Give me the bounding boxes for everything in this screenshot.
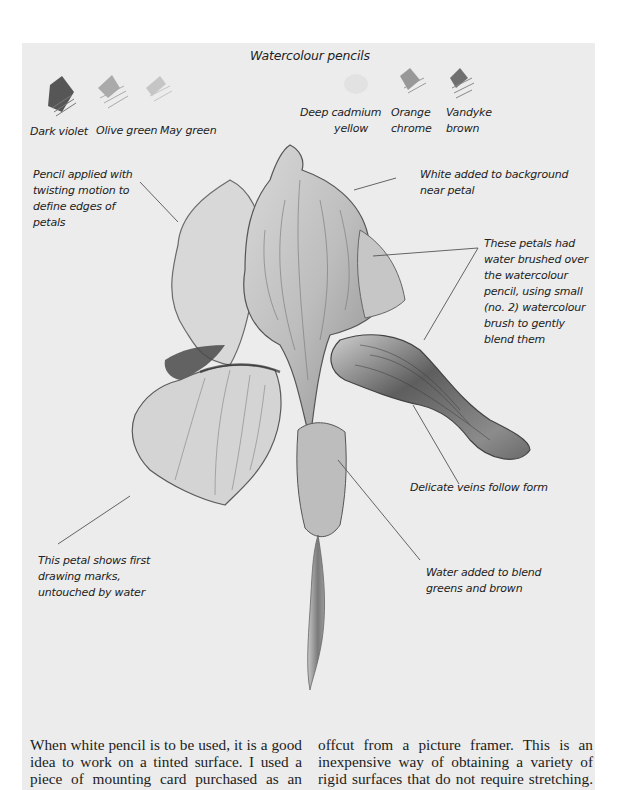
stem — [308, 535, 325, 690]
annotation-line: White added to background — [420, 167, 568, 183]
annotation-first-marks: This petal shows first drawing marks, un… — [38, 553, 150, 601]
body-line: offcut from a picture framer. This is an — [318, 736, 593, 753]
body-line: inexpensive way of obtaining a variety o… — [318, 753, 593, 770]
right-crest-petal — [358, 230, 405, 318]
annotation-line: twisting motion to — [33, 183, 133, 199]
label-olive-green: Olive green — [96, 123, 157, 139]
annotation-line: Pencil applied with — [33, 167, 133, 183]
annotation-line: the watercolour — [484, 268, 588, 284]
body-line: rigid surfaces that do not require stret… — [318, 770, 593, 787]
annotation-line: pencil, using small — [484, 284, 588, 300]
label-line: Orange — [391, 105, 432, 121]
annotation-line: untouched by water — [38, 585, 150, 601]
label-line: chrome — [391, 121, 432, 137]
annotation-line: greens and brown — [426, 581, 541, 597]
annotation-water-brushed: These petals had water brushed over the … — [484, 236, 588, 348]
annotation-line: brush to gently — [484, 316, 588, 332]
label-may-green: May green — [160, 123, 216, 139]
label-dark-violet: Dark violet — [30, 124, 88, 140]
label-line: yellow — [300, 121, 368, 137]
annotation-white-background: White added to background near petal — [420, 167, 568, 199]
annotation-line: blend them — [484, 332, 588, 348]
annotation-line: This petal shows first — [38, 553, 150, 569]
left-fall-petal — [132, 365, 281, 505]
body-line: piece of mounting card purchased as an — [30, 770, 302, 787]
annotation-line: These petals had — [484, 236, 588, 252]
annotation-water-blend: Water added to blend greens and brown — [426, 565, 541, 597]
annotation-line: water brushed over — [484, 252, 588, 268]
body-text-right-column: offcut from a picture framer. This is an… — [318, 736, 593, 787]
label-line: Deep cadmium — [300, 105, 368, 121]
label-orange-chrome: Orange chrome — [391, 105, 432, 137]
annotation-delicate-veins: Delicate veins follow form — [410, 480, 548, 496]
annotation-line: Delicate veins follow form — [410, 480, 548, 496]
annotation-line: petals — [33, 215, 133, 231]
swatch-orange-chrome — [400, 68, 426, 93]
swatch-vandyke-brown — [450, 68, 474, 98]
body-line: idea to work on a tinted surface. I used… — [30, 753, 302, 770]
annotation-line: define edges of — [33, 199, 133, 215]
label-vandyke-brown: Vandyke brown — [446, 105, 492, 137]
swatch-may-green — [146, 76, 172, 101]
label-line: brown — [446, 121, 492, 137]
label-line: Vandyke — [446, 105, 492, 121]
annotation-twisting-motion: Pencil applied with twisting motion to d… — [33, 167, 133, 231]
annotation-line: Water added to blend — [426, 565, 541, 581]
swatch-olive-green — [98, 75, 128, 108]
body-line: When white pencil is to be used, it is a… — [30, 736, 302, 753]
annotation-line: drawing marks, — [38, 569, 150, 585]
bract — [297, 423, 346, 537]
right-fall-petal — [331, 335, 530, 460]
label-deep-cadmium-yellow: Deep cadmium yellow — [300, 105, 368, 137]
annotation-line: (no. 2) watercolour — [484, 300, 588, 316]
swatch-deep-cadmium-yellow — [344, 74, 368, 94]
annotation-line: near petal — [420, 183, 568, 199]
panel-title: Watercolour pencils — [250, 48, 370, 64]
swatch-dark-violet — [48, 76, 76, 116]
body-text-left-column: When white pencil is to be used, it is a… — [30, 736, 302, 787]
